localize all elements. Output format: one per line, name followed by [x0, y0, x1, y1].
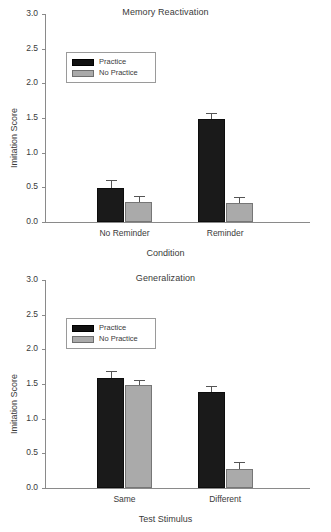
y-axis-tick-label: 1.0	[16, 414, 38, 423]
y-axis-tick-label: 2.5	[16, 310, 38, 319]
y-axis-tick	[42, 49, 45, 50]
error-bar	[239, 462, 240, 469]
error-bar-cap	[234, 462, 245, 463]
x-axis-tick-label: No Reminder	[99, 228, 149, 238]
y-axis-tick	[42, 222, 45, 223]
y-axis-tick-label: 2.5	[16, 44, 38, 53]
x-axis-tick-label: Different	[209, 494, 241, 504]
bar-no-practice	[226, 469, 253, 488]
y-axis-line	[45, 280, 46, 488]
error-bar-cap	[106, 371, 117, 372]
plot-area-top: 0.00.51.01.52.02.53.0No ReminderReminder	[45, 14, 310, 222]
plot-area-bottom: 0.00.51.01.52.02.53.0SameDifferent	[45, 280, 310, 488]
y-axis-tick-label: 3.0	[16, 275, 38, 284]
y-axis-line	[45, 14, 46, 222]
y-axis-tick	[42, 280, 45, 281]
legend-swatch-practice-icon	[72, 325, 94, 332]
legend-swatch-no-practice-icon	[72, 336, 94, 343]
error-bar-cap	[206, 113, 217, 114]
panel-memory-reactivation: Memory Reactivation Imitation Score 0.00…	[0, 0, 331, 266]
bar-no-practice	[226, 203, 253, 222]
y-axis-tick-label: 1.5	[16, 379, 38, 388]
bar-practice	[198, 392, 225, 488]
y-axis-tick-label: 0.0	[16, 483, 38, 492]
legend-swatch-practice-icon	[72, 59, 94, 66]
bar-practice	[97, 378, 124, 488]
error-bar	[111, 371, 112, 379]
bar-no-practice	[125, 385, 152, 488]
y-axis-tick	[42, 384, 45, 385]
y-axis-tick	[42, 14, 45, 15]
y-axis-tick-label: 0.5	[16, 182, 38, 191]
legend-bottom: Practice No Practice	[66, 318, 156, 349]
y-axis-tick-label: 0.5	[16, 448, 38, 457]
x-axis-tick-label: Same	[113, 494, 135, 504]
y-axis-tick	[42, 83, 45, 84]
y-axis-tick-label: 1.5	[16, 113, 38, 122]
legend-item-no-practice: No Practice	[72, 68, 150, 78]
legend-swatch-no-practice-icon	[72, 70, 94, 77]
bar-practice	[198, 119, 225, 222]
y-axis-tick	[42, 419, 45, 420]
y-axis-tick-label: 2.0	[16, 78, 38, 87]
legend-label-no-practice: No Practice	[99, 335, 138, 343]
y-axis-tick-label: 3.0	[16, 9, 38, 18]
x-axis-line	[45, 222, 310, 223]
y-axis-tick-label: 0.0	[16, 217, 38, 226]
error-bar-cap	[106, 180, 117, 181]
y-axis-tick	[42, 187, 45, 188]
legend-label-no-practice: No Practice	[99, 69, 138, 77]
legend-label-practice: Practice	[99, 58, 126, 66]
x-axis-tick-label: Reminder	[207, 228, 244, 238]
legend-item-practice: Practice	[72, 323, 150, 333]
y-axis-tick	[42, 153, 45, 154]
legend-top: Practice No Practice	[66, 52, 156, 83]
x-axis-label-bottom: Test Stimulus	[0, 514, 331, 524]
legend-label-practice: Practice	[99, 324, 126, 332]
x-axis-line	[45, 488, 310, 489]
legend-item-practice: Practice	[72, 57, 150, 67]
error-bar-cap	[234, 197, 245, 198]
bar-no-practice	[125, 202, 152, 222]
y-axis-tick	[42, 315, 45, 316]
y-axis-tick	[42, 349, 45, 350]
error-bar-cap	[206, 386, 217, 387]
panel-generalization: Generalization Imitation Score 0.00.51.0…	[0, 266, 331, 532]
y-axis-tick	[42, 118, 45, 119]
error-bar-cap	[134, 380, 145, 381]
error-bar-cap	[134, 196, 145, 197]
bar-practice	[97, 188, 124, 222]
y-axis-tick	[42, 453, 45, 454]
y-axis-tick	[42, 488, 45, 489]
y-axis-tick-label: 2.0	[16, 344, 38, 353]
y-axis-tick-label: 1.0	[16, 148, 38, 157]
error-bar	[111, 180, 112, 188]
legend-item-no-practice: No Practice	[72, 334, 150, 344]
x-axis-label-top: Condition	[0, 248, 331, 258]
